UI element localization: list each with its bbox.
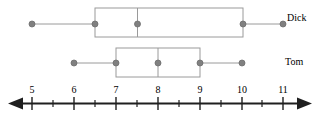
axis-tick-label-10: 10 (237, 85, 247, 95)
axis-arrow-left-icon (8, 98, 23, 110)
number-line-axis (8, 97, 312, 110)
axis-tick-label-9: 9 (198, 85, 203, 95)
axis-tick-label-8: 8 (156, 85, 161, 95)
boxplot-series-dick (29, 8, 286, 37)
dick-marker-min (29, 21, 35, 27)
tom-marker-q1 (113, 60, 119, 66)
axis-arrow-right-icon (297, 98, 312, 110)
tom-marker-max (239, 60, 245, 66)
boxplot-series-tom (71, 48, 245, 77)
tom-marker-median (155, 60, 161, 66)
series-label-tom: Tom (285, 57, 303, 67)
axis-tick-label-7: 7 (114, 85, 119, 95)
dick-marker-median (135, 21, 141, 27)
dick-marker-q1 (92, 21, 98, 27)
boxplot-figure: Dick Tom 5 6 7 8 9 10 11 (0, 0, 319, 116)
dick-marker-max (280, 21, 286, 27)
series-label-dick: Dick (287, 13, 306, 23)
axis-tick-label-11: 11 (278, 85, 288, 95)
tom-marker-min (71, 60, 77, 66)
dick-box (95, 8, 243, 37)
dick-marker-q3 (240, 21, 246, 27)
axis-tick-label-6: 6 (72, 85, 77, 95)
axis-tick-label-5: 5 (30, 85, 35, 95)
tom-marker-q3 (197, 60, 203, 66)
boxplot-canvas (0, 0, 319, 116)
